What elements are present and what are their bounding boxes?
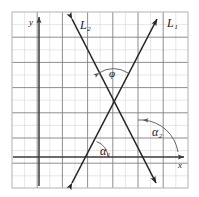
angle-label-alpha1: α₁ bbox=[100, 144, 110, 158]
angle-label-alpha2: α₂ bbox=[152, 125, 162, 139]
x-axis-label: x bbox=[177, 160, 182, 170]
figure-container: L₁ L₂ φ α₁ α₂ y x bbox=[0, 0, 199, 197]
y-axis-label: y bbox=[28, 17, 33, 27]
angle-label-phi: φ bbox=[109, 67, 115, 79]
line-label-L2: L₂ bbox=[79, 18, 91, 32]
geometry-figure: L₁ L₂ φ α₁ α₂ y x bbox=[0, 0, 199, 197]
line-label-L1: L₁ bbox=[166, 16, 178, 30]
